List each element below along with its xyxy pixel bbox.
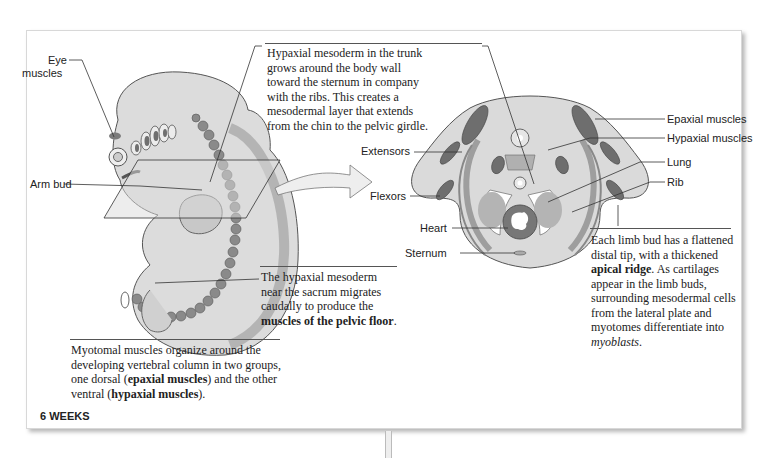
label-rib: Rib <box>667 176 684 189</box>
label-sternum: Sternum <box>405 247 447 260</box>
label-extensors: Extensors <box>361 145 410 158</box>
caption-limb-line: myotomes differentiate into <box>591 320 736 335</box>
caption-trunk-line: grows around the body wall <box>267 61 428 76</box>
text: . As cartilages <box>651 262 719 276</box>
caption-trunk: Hypaxial mesoderm in the trunk grows aro… <box>267 46 428 133</box>
caption-limb-line: appear in the limb buds, <box>591 277 736 292</box>
caption-rule-limb-bud <box>590 228 731 229</box>
caption-myotomal: Myotomal muscles organize around the dev… <box>71 343 281 401</box>
bold-term: apical ridge <box>591 262 651 276</box>
text: ) and the other <box>207 372 277 386</box>
caption-rule-sacrum <box>260 266 397 267</box>
caption-trunk-line: toward the sternum in company <box>267 75 428 90</box>
caption-myotomal-line: one dorsal (epaxial muscles) and the oth… <box>71 372 281 387</box>
text: one dorsal ( <box>71 372 128 386</box>
text: ventral ( <box>71 387 111 401</box>
label-hypaxial-muscles: Hypaxial muscles <box>667 132 753 145</box>
caption-limb-line: from the lateral plate and <box>591 306 736 321</box>
caption-sacrum-line: The hypaxial mesoderm <box>261 270 397 285</box>
caption-trunk-line: with the ribs. This creates a <box>267 90 428 105</box>
label-eye-muscles-line2: muscles <box>22 67 62 80</box>
caption-limb-line: apical ridge. As cartilages <box>591 262 736 277</box>
label-flexors: Flexors <box>370 190 406 203</box>
caption-sacrum-line: muscles of the pelvic floor. <box>261 314 397 329</box>
label-epaxial-muscles: Epaxial muscles <box>667 113 746 126</box>
caption-myotomal-line: ventral (hypaxial muscles). <box>71 387 281 402</box>
caption-sacrum-line: near the sacrum migrates <box>261 285 397 300</box>
label-eye-muscles-line1: Eye <box>37 54 67 67</box>
caption-limb-line: Each limb bud has a flattened <box>591 233 736 248</box>
label-arm-bud: Arm bud <box>30 178 72 191</box>
caption-sacrum: The hypaxial mesoderm near the sacrum mi… <box>261 270 397 328</box>
caption-limb-bud: Each limb bud has a flattened distal tip… <box>591 233 736 349</box>
label-heart: Heart <box>420 222 447 235</box>
bold-term: hypaxial muscles <box>111 387 198 401</box>
caption-limb-line: surrounding mesodermal cells <box>591 291 736 306</box>
bold-term: muscles of the pelvic floor <box>261 314 394 328</box>
stage-label: 6 WEEKS <box>40 410 90 422</box>
caption-myotomal-line: Myotomal muscles organize around the <box>71 343 281 358</box>
text: ). <box>198 387 205 401</box>
caption-rule-trunk <box>265 43 482 44</box>
caption-trunk-line: Hypaxial mesoderm in the trunk <box>267 46 428 61</box>
caption-sacrum-line: caudally to produce the <box>261 299 397 314</box>
text: . <box>639 335 642 349</box>
caption-myotomal-line: developing vertebral column in two group… <box>71 358 281 373</box>
caption-limb-line: myoblasts. <box>591 335 736 350</box>
caption-trunk-line: from the chin to the pelvic girdle. <box>267 119 428 134</box>
caption-limb-line: distal tip, with a thickened <box>591 248 736 263</box>
caption-trunk-line: mesodermal layer that extends <box>267 104 428 119</box>
bold-term: epaxial muscles <box>128 372 208 386</box>
caption-rule-myotomal <box>70 339 280 340</box>
label-lung: Lung <box>667 156 691 169</box>
caption-tail: . <box>394 314 397 328</box>
italic-term: myoblasts <box>591 335 639 349</box>
